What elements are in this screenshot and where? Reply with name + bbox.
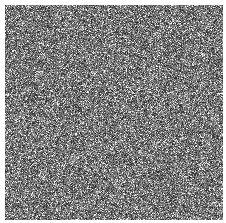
image-frame [0, 0, 226, 223]
noise-texture [5, 5, 223, 220]
